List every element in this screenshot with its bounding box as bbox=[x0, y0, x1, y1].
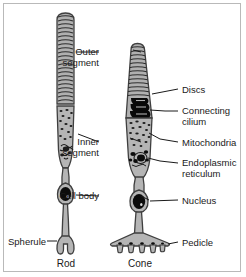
figure-root: Outersegment Innersegment Cell body Disc… bbox=[0, 0, 246, 277]
label-inner-segment: Innersegment bbox=[0, 136, 99, 158]
leader-connecting-cilium bbox=[150, 110, 178, 111]
label-endoplasmic-reticulum: Endoplasmicreticulum bbox=[182, 157, 236, 179]
cone-axon bbox=[135, 212, 144, 234]
label-inner-segment-line1: Inner bbox=[77, 136, 99, 147]
leader-pedicle bbox=[168, 242, 178, 244]
label-discs: Discs bbox=[182, 84, 205, 95]
cell-name-cone: Cone bbox=[112, 258, 168, 269]
label-outer-segment: Outersegment bbox=[0, 46, 99, 68]
label-connecting-cilium-line1: Connecting bbox=[182, 105, 230, 116]
label-inner-segment-line2: segment bbox=[63, 147, 99, 158]
label-connecting-cilium-line2: cilium bbox=[182, 116, 206, 127]
label-outer-segment-line2: segment bbox=[63, 57, 99, 68]
label-endoplasmic-reticulum-line2: reticulum bbox=[182, 168, 221, 179]
leader-nucleus bbox=[150, 200, 178, 201]
leader-mitochondria bbox=[149, 133, 178, 142]
label-nucleus: Nucleus bbox=[182, 195, 216, 206]
label-connecting-cilium: Connectingcilium bbox=[182, 105, 230, 127]
label-endoplasmic-reticulum-line1: Endoplasmic bbox=[182, 157, 236, 168]
leader-endoplasmic-reticulum bbox=[148, 158, 178, 163]
cone-nucleolus-highlight bbox=[140, 203, 142, 206]
cone-cell bbox=[111, 44, 170, 253]
label-pedicle: Pedicle bbox=[182, 237, 213, 248]
label-cell-body: Cell body bbox=[0, 190, 99, 201]
rod-axon bbox=[62, 204, 69, 238]
cell-name-rod: Rod bbox=[38, 258, 94, 269]
label-spherule: Spherule bbox=[8, 236, 46, 247]
rod-spherule bbox=[57, 236, 74, 254]
leader-discs bbox=[152, 89, 178, 94]
label-outer-segment-line1: Outer bbox=[75, 46, 99, 57]
cone-nucleus bbox=[133, 194, 145, 209]
cone-connecting-cilium bbox=[130, 98, 151, 118]
label-mitochondria: Mitochondria bbox=[182, 137, 236, 148]
